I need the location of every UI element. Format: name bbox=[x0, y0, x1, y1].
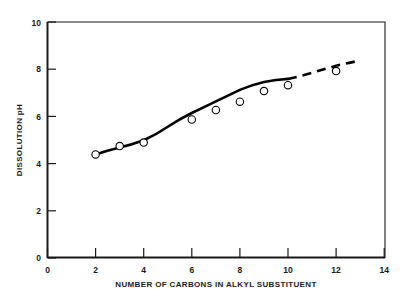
y-tick-label: 2 bbox=[36, 206, 41, 216]
y-axis-title: DISSOLUTION pH bbox=[15, 104, 24, 176]
x-tick-label: 10 bbox=[283, 265, 293, 275]
data-point bbox=[140, 139, 147, 146]
x-tick-label: 4 bbox=[141, 265, 146, 275]
x-tick-label: 2 bbox=[93, 265, 98, 275]
y-axis-tick-labels: 0 2 4 6 8 10 bbox=[32, 18, 42, 264]
plot-area-background bbox=[47, 22, 385, 258]
data-point bbox=[92, 151, 99, 158]
x-tick-label: 6 bbox=[189, 265, 194, 275]
x-axis-title: NUMBER OF CARBONS IN ALKYL SUBSTITUENT bbox=[115, 280, 316, 289]
y-tick-label: 10 bbox=[32, 18, 42, 28]
data-point bbox=[212, 106, 219, 113]
y-tick-label: 0 bbox=[36, 253, 41, 263]
y-tick-label: 4 bbox=[36, 159, 41, 169]
data-point bbox=[260, 87, 267, 94]
x-tick-label: 12 bbox=[331, 265, 341, 275]
data-point bbox=[236, 98, 243, 105]
x-tick-label: 0 bbox=[45, 265, 50, 275]
dissolution-ph-chart: 0 2 4 6 8 10 12 14 0 2 4 6 8 10 N bbox=[0, 0, 407, 301]
data-point bbox=[284, 82, 291, 89]
data-point bbox=[188, 116, 195, 123]
data-point bbox=[116, 142, 123, 149]
x-tick-label: 14 bbox=[379, 265, 389, 275]
x-tick-label: 8 bbox=[238, 265, 243, 275]
y-tick-label: 6 bbox=[36, 112, 41, 122]
x-axis-tick-labels: 0 2 4 6 8 10 12 14 bbox=[45, 265, 389, 275]
data-point bbox=[332, 67, 339, 74]
chart-figure: 0 2 4 6 8 10 12 14 0 2 4 6 8 10 N bbox=[0, 0, 407, 301]
y-tick-label: 8 bbox=[36, 64, 41, 74]
